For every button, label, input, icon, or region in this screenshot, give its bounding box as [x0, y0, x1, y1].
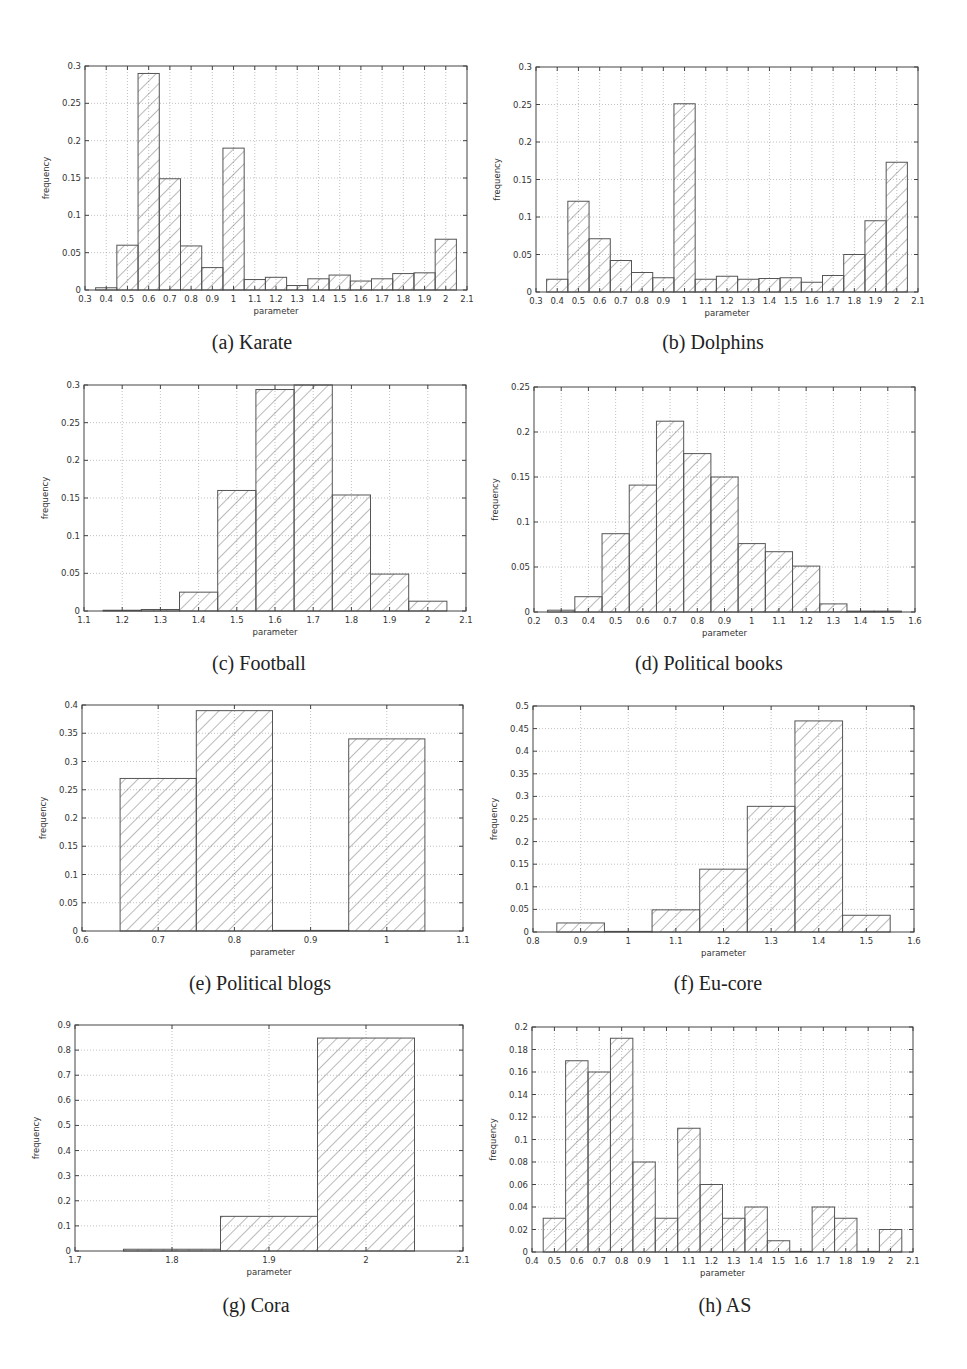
x-tick-label: 0.8	[228, 935, 242, 945]
y-axis-label: frequency	[492, 158, 502, 201]
x-tick-label: 1.1	[772, 616, 786, 626]
y-tick-label: 0.05	[510, 904, 529, 914]
bar	[117, 245, 138, 290]
y-tick-label: 0.15	[510, 859, 529, 869]
y-tick-label: 0.05	[513, 250, 532, 260]
y-tick-label: 0.4	[64, 700, 78, 710]
chart-as: 0.40.50.60.70.80.911.11.21.31.41.51.61.7…	[488, 1022, 920, 1278]
y-tick-label: 0.4	[57, 1146, 71, 1156]
x-tick-label: 1.3	[764, 936, 778, 946]
y-tick-label: 0.25	[510, 814, 529, 824]
x-tick-label: 1.7	[375, 294, 389, 304]
y-tick-label: 0.05	[61, 568, 80, 578]
x-tick-label: 0.9	[718, 616, 732, 626]
x-tick-label: 1	[682, 296, 687, 306]
y-tick-label: 0.15	[59, 841, 78, 851]
bar	[738, 544, 765, 612]
y-tick-label: 0.1	[66, 531, 80, 541]
x-tick-label: 1.1	[669, 936, 683, 946]
x-tick-label: 1.6	[908, 616, 922, 626]
x-tick-label: 2.1	[456, 1255, 470, 1265]
y-tick-label: 0.2	[516, 427, 530, 437]
x-tick-label: 1.1	[77, 615, 91, 625]
bar	[138, 73, 159, 290]
x-tick-label: 0.6	[142, 294, 156, 304]
x-tick-label: 1.7	[826, 296, 840, 306]
x-tick-label: 1.8	[839, 1256, 853, 1266]
y-tick-label: 0.2	[515, 837, 529, 847]
x-tick-label: 1.3	[827, 616, 841, 626]
x-tick-label: 1.5	[881, 616, 895, 626]
bar	[812, 1207, 834, 1252]
y-axis-label: frequency	[38, 797, 48, 840]
x-tick-label: 0.5	[121, 294, 135, 304]
x-tick-label: 2.1	[460, 294, 474, 304]
bar	[349, 739, 425, 931]
x-tick-label: 0.4	[99, 294, 113, 304]
subfigure-caption: (a) Karate	[212, 331, 293, 354]
chart-football: 1.11.21.31.41.51.61.71.81.922.100.050.10…	[40, 380, 473, 637]
x-tick-label: 0.9	[206, 294, 220, 304]
y-tick-label: 0.4	[515, 746, 529, 756]
y-tick-label: 0	[76, 285, 81, 295]
x-tick-label: 1.5	[784, 296, 798, 306]
histogram-bars	[124, 1038, 415, 1251]
y-tick-label: 0.3	[57, 1171, 71, 1181]
y-tick-label: 0.15	[513, 175, 532, 185]
bar	[711, 477, 738, 612]
x-tick-label: 0.4	[525, 1256, 539, 1266]
bar	[678, 1128, 700, 1252]
x-tick-label: 1.4	[854, 616, 868, 626]
y-tick-label: 0.2	[64, 813, 78, 823]
histogram-bars	[547, 104, 908, 292]
bar	[610, 1038, 632, 1252]
y-tick-label: 0.1	[57, 1221, 71, 1231]
bar	[332, 495, 370, 611]
y-tick-label: 0	[75, 606, 80, 616]
x-axis-label: parameter	[705, 308, 750, 318]
y-tick-label: 0.1	[515, 882, 529, 892]
x-tick-label: 1.4	[812, 936, 826, 946]
y-tick-label: 0.3	[515, 791, 529, 801]
bar	[886, 162, 907, 292]
x-axis-label: parameter	[254, 306, 299, 316]
y-tick-label: 0.1	[67, 210, 81, 220]
bar	[218, 490, 256, 611]
x-tick-label: 0.3	[554, 616, 568, 626]
chart-political_books: 0.20.30.40.50.60.70.80.911.11.21.31.41.5…	[490, 382, 922, 638]
x-axis-label: parameter	[250, 947, 295, 957]
x-tick-label: 0.5	[572, 296, 586, 306]
x-tick-label: 1.6	[794, 1256, 808, 1266]
y-tick-label: 0.25	[511, 382, 530, 392]
y-tick-label: 0.12	[509, 1112, 528, 1122]
x-tick-label: 2	[443, 294, 448, 304]
bar	[543, 1218, 565, 1252]
histogram-bars	[543, 1038, 902, 1252]
subfigure-caption: (d) Political books	[635, 652, 783, 675]
bar	[629, 485, 656, 612]
x-tick-label: 1.3	[741, 296, 755, 306]
y-tick-label: 0	[73, 926, 78, 936]
y-tick-label: 0.3	[66, 380, 80, 390]
x-tick-label: 0.6	[75, 935, 89, 945]
y-tick-label: 0.15	[62, 173, 81, 183]
subfigure-caption: (g) Cora	[222, 1294, 289, 1317]
y-tick-label: 0.05	[59, 898, 78, 908]
y-tick-label: 0.1	[518, 212, 532, 222]
x-tick-label: 1.4	[312, 294, 326, 304]
chart-eu_core: 0.80.911.11.21.31.41.51.600.050.10.150.2…	[489, 701, 921, 958]
x-tick-label: 1.9	[418, 294, 432, 304]
x-tick-label: 1.7	[817, 1256, 831, 1266]
y-tick-label: 0.15	[61, 493, 80, 503]
bar	[793, 566, 820, 612]
x-tick-label: 1	[664, 1256, 669, 1266]
bar	[602, 534, 629, 612]
y-tick-label: 0.6	[57, 1095, 71, 1105]
bar	[256, 390, 294, 611]
bar	[655, 1218, 677, 1252]
bar	[196, 711, 272, 931]
x-tick-label: 1.7	[306, 615, 320, 625]
x-tick-label: 1.6	[907, 936, 921, 946]
y-tick-label: 0.04	[509, 1202, 528, 1212]
bar	[120, 778, 196, 931]
